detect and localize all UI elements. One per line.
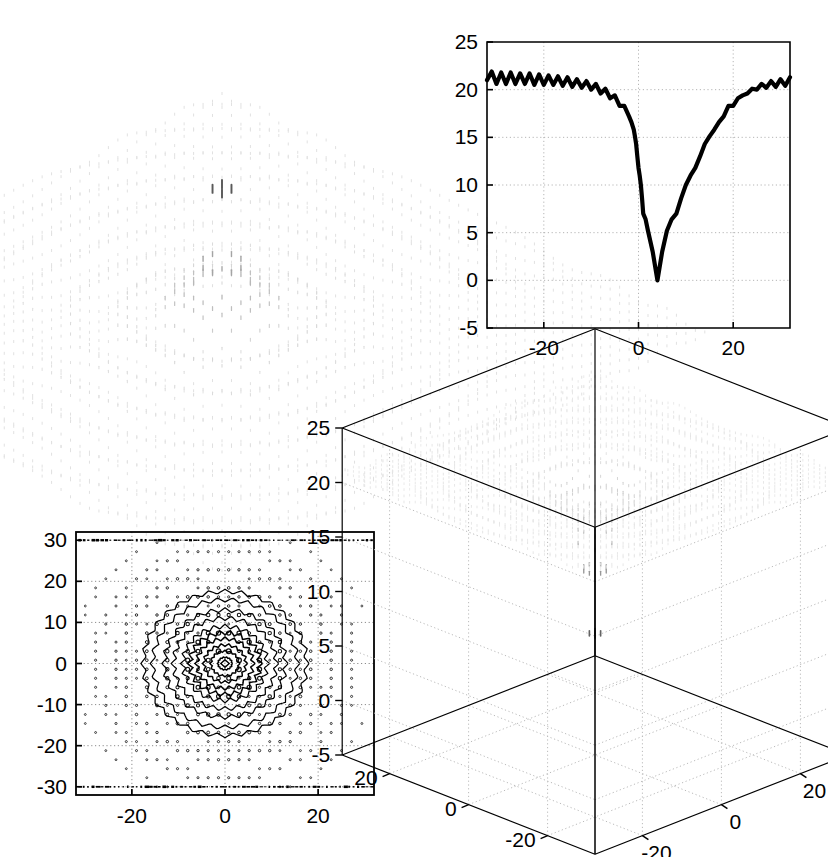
- panel-mesh-funnel: -50510152025200-20-20020: [420, 390, 828, 857]
- tick-label: 20: [306, 804, 329, 827]
- tick-label: 5: [466, 221, 478, 244]
- panel-mesh-peak: [10, 5, 430, 505]
- tick-label: 0: [730, 810, 742, 833]
- tick-label: -30: [37, 775, 67, 798]
- funnel-surface-plot: -50510152025200-20-20020: [420, 390, 828, 857]
- panel-cross-section: -50510152025-20020: [430, 10, 828, 390]
- tick-label: 25: [455, 30, 478, 53]
- tick-label: 20: [722, 336, 745, 359]
- tick-label: -20: [37, 734, 67, 757]
- tick-label: 5: [319, 634, 331, 657]
- tick-label: -20: [641, 841, 671, 857]
- tick-label: 20: [44, 569, 67, 592]
- tick-label: 20: [307, 471, 330, 494]
- tick-label: 15: [307, 525, 330, 548]
- tick-label: 20: [803, 779, 826, 802]
- tick-label: -20: [529, 336, 559, 359]
- tick-label: 15: [455, 125, 478, 148]
- tick-label: -5: [312, 743, 331, 766]
- tick-label: 10: [44, 610, 67, 633]
- tick-label: 20: [354, 766, 377, 789]
- tick-label: 0: [466, 268, 478, 291]
- cross-section-plot: -50510152025-20020: [430, 10, 828, 390]
- contour-tick-labels: -30-20-100102030-20020: [37, 528, 330, 827]
- contour-plot: -30-20-100102030-20020: [10, 505, 430, 857]
- panel-contour: -30-20-100102030-20020: [10, 505, 430, 857]
- mesh-peak-surface: [10, 5, 430, 505]
- tick-label: 0: [55, 652, 67, 675]
- tick-label: 30: [44, 528, 67, 551]
- tick-label: 10: [307, 580, 330, 603]
- tick-label: -5: [459, 316, 478, 339]
- tick-label: -20: [505, 828, 535, 851]
- tick-label: 0: [445, 797, 457, 820]
- tick-label: -10: [37, 693, 67, 716]
- tick-label: 0: [219, 804, 231, 827]
- tick-label: 10: [455, 173, 478, 196]
- tick-label: -20: [117, 804, 147, 827]
- tick-label: 0: [319, 689, 331, 712]
- tick-label: 25: [307, 416, 330, 439]
- tick-label: 20: [455, 78, 478, 101]
